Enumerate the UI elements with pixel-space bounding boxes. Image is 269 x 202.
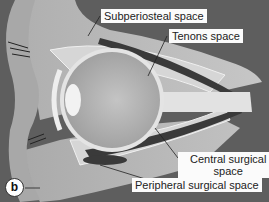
label-tenons-space: Tenons space: [169, 29, 243, 43]
panel-badge: b: [5, 178, 24, 197]
label-peripheral-surgical-space: Peripheral surgical space: [132, 178, 262, 192]
label-central-surgical-space: Central surgical space: [178, 152, 269, 178]
orbit-diagram: Subperiosteal space Tenons space Central…: [0, 0, 269, 202]
label-subperiosteal-space: Subperiosteal space: [101, 9, 207, 23]
label-central-line2: space: [190, 165, 266, 177]
label-central-line1: Central surgical: [190, 153, 266, 165]
